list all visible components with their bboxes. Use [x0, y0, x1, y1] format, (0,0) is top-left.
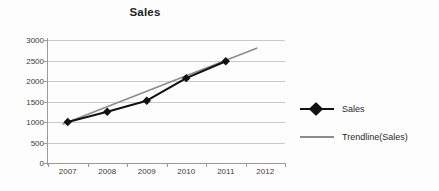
- x-axis-tick-labels: 200720082009201020112012: [48, 167, 285, 183]
- legend-diamond-marker-icon: [309, 102, 323, 116]
- y-axis-tick-label: 0: [2, 159, 44, 168]
- x-axis-tick-label: 2008: [98, 167, 116, 176]
- y-axis-tick-mark: [43, 143, 47, 144]
- y-axis-tick-label: 2000: [2, 77, 44, 86]
- sales-line-chart: Sales 050010001500200025003000 200720082…: [0, 0, 439, 191]
- legend-item-label: Sales: [342, 104, 365, 114]
- y-axis-tick-mark: [43, 40, 47, 41]
- x-axis-tick-label: 2010: [177, 167, 195, 176]
- y-axis-tick-label: 1500: [2, 97, 44, 106]
- legend-swatch-icon: [300, 131, 334, 143]
- y-axis-tick-mark: [43, 81, 47, 82]
- legend-line-icon: [300, 136, 334, 138]
- y-axis-tick-mark: [43, 61, 47, 62]
- series-layer: [48, 40, 285, 163]
- y-axis-tick-mark: [43, 102, 47, 103]
- chart-title: Sales: [0, 6, 290, 18]
- x-axis-tick-mark: [285, 163, 286, 167]
- y-axis-tick-label: 2500: [2, 56, 44, 65]
- plot-area: [48, 40, 285, 163]
- sales-data-point-marker: [64, 118, 72, 126]
- x-axis-tick-label: 2011: [217, 167, 234, 176]
- legend-item-label: Trendline(Sales): [342, 132, 408, 142]
- y-axis-tick-label: 3000: [2, 36, 44, 45]
- y-axis-tick-label: 500: [2, 138, 44, 147]
- chart-legend: SalesTrendline(Sales): [300, 95, 435, 151]
- y-axis-tick-label: 1000: [2, 118, 44, 127]
- legend-swatch-icon: [300, 103, 334, 115]
- y-axis-tick-mark: [43, 122, 47, 123]
- y-axis-tick-mark: [43, 163, 47, 164]
- x-axis-tick-label: 2007: [59, 167, 77, 176]
- sales-data-point-marker: [143, 96, 151, 104]
- x-axis-tick-label: 2012: [256, 167, 274, 176]
- x-axis-tick-label: 2009: [138, 167, 156, 176]
- legend-item[interactable]: Trendline(Sales): [300, 123, 435, 151]
- legend-item[interactable]: Sales: [300, 95, 435, 123]
- sales-data-point-marker: [103, 108, 111, 116]
- y-axis-tick-labels: 050010001500200025003000: [0, 40, 44, 163]
